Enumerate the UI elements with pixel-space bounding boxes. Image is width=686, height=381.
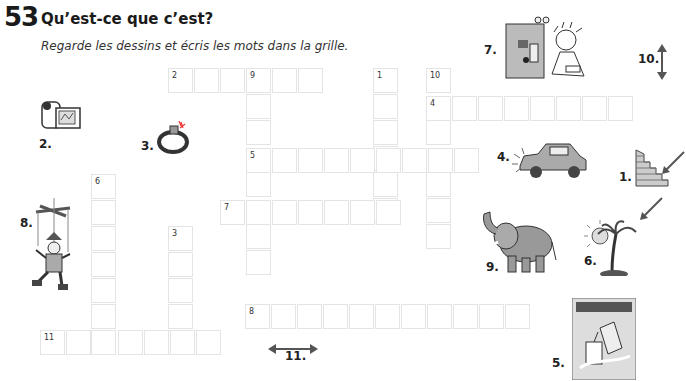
crossword-cell[interactable] — [427, 304, 452, 329]
crossword-cell[interactable] — [453, 304, 478, 329]
clue-number: 7 — [224, 203, 229, 212]
clue-number: 1 — [377, 71, 382, 80]
crossword-cell[interactable]: 10 — [426, 68, 451, 93]
crossword-cell[interactable] — [582, 96, 607, 121]
vertical-double-arrow-icon — [656, 44, 668, 80]
crossword-cell[interactable] — [324, 200, 349, 225]
crossword-cell[interactable] — [246, 224, 271, 249]
crossword-cell[interactable] — [91, 226, 116, 251]
crossword-cell[interactable]: 11 — [40, 330, 65, 355]
crossword-cell[interactable] — [505, 304, 530, 329]
crossword-cell[interactable] — [428, 148, 453, 173]
crossword-cell[interactable] — [556, 96, 581, 121]
inventor-machine-icon — [504, 14, 590, 80]
crossword-cell[interactable] — [144, 330, 169, 355]
picture-8 — [32, 198, 80, 302]
crossword-cell[interactable]: 3 — [168, 226, 193, 251]
picture-1 — [634, 148, 686, 192]
crossword-cell[interactable] — [373, 172, 398, 197]
crossword-cell[interactable] — [608, 96, 633, 121]
crossword-cell[interactable] — [297, 304, 322, 329]
marionette-icon — [32, 198, 80, 298]
crossword-cell[interactable] — [426, 198, 451, 223]
clue-number: 2 — [172, 71, 177, 80]
crossword-cell[interactable]: 2 — [168, 68, 193, 93]
crossword-cell[interactable] — [220, 68, 245, 93]
crossword-cell[interactable] — [298, 148, 323, 173]
picture-label-2: 2. — [39, 137, 52, 151]
picture-label-1: 1. — [619, 170, 632, 184]
clue-number: 4 — [430, 99, 435, 108]
crossword-cell[interactable] — [402, 148, 427, 173]
crossword-cell[interactable] — [452, 96, 477, 121]
crossword-cell[interactable] — [168, 278, 193, 303]
crossword-cell[interactable]: 7 — [220, 200, 245, 225]
crossword-cell[interactable] — [298, 68, 323, 93]
crossword-cell[interactable] — [168, 304, 193, 329]
crossword-cell[interactable] — [349, 304, 374, 329]
crossword-cell[interactable] — [298, 200, 323, 225]
crossword-cell[interactable] — [271, 304, 296, 329]
crossword-cell[interactable]: 8 — [245, 304, 270, 329]
crossword-cell[interactable] — [350, 148, 375, 173]
crossword-cell[interactable] — [323, 304, 348, 329]
crossword-cell[interactable] — [91, 278, 116, 303]
crossword-cell[interactable] — [168, 252, 193, 277]
crossword-cell[interactable] — [426, 120, 451, 145]
crossword-cell[interactable] — [373, 94, 398, 119]
crossword-cell[interactable] — [375, 304, 400, 329]
crossword-cell[interactable] — [91, 304, 116, 329]
crossword-cell[interactable] — [118, 330, 143, 355]
crossword-cell[interactable] — [426, 224, 451, 249]
crossword-cell[interactable] — [350, 200, 375, 225]
crashed-car-icon — [512, 138, 590, 180]
clue-number: 6 — [95, 177, 100, 186]
diamond-ring-icon — [153, 120, 195, 156]
clue-number: 11 — [44, 333, 54, 342]
crossword-cell[interactable] — [170, 330, 195, 355]
picture-label-8: 8. — [20, 216, 33, 230]
picture-label-11: 11. — [285, 349, 306, 363]
crossword-cell[interactable] — [246, 172, 271, 197]
crossword-cell[interactable] — [66, 330, 91, 355]
crossword-cell[interactable] — [426, 172, 451, 197]
crossword-cell[interactable] — [246, 200, 271, 225]
crossword-cell[interactable]: 9 — [246, 68, 271, 93]
clue-number: 10 — [430, 71, 440, 80]
crossword-cell[interactable] — [246, 250, 271, 275]
crossword-cell[interactable] — [194, 68, 219, 93]
picture-label-9: 9. — [486, 260, 499, 274]
picture-label-6: 6. — [584, 254, 597, 268]
crossword-cell[interactable] — [246, 94, 271, 119]
crossword-cell[interactable] — [91, 200, 116, 225]
crossword-cell[interactable] — [373, 120, 398, 145]
crossword-cell[interactable] — [530, 96, 555, 121]
crossword-cell[interactable]: 1 — [373, 68, 398, 93]
picture-label-5: 5. — [552, 356, 565, 370]
crossword-cell[interactable] — [376, 148, 401, 173]
crossword-cell[interactable] — [324, 148, 349, 173]
crossword-cell[interactable] — [196, 330, 221, 355]
crossword-cell[interactable] — [478, 96, 503, 121]
crossword-cell[interactable] — [479, 304, 504, 329]
crossword-cell[interactable] — [401, 304, 426, 329]
exercise-instruction: Regarde les dessins et écris les mots da… — [41, 39, 348, 53]
picture-4 — [512, 138, 590, 184]
crossword-cell[interactable] — [272, 148, 297, 173]
crossword-cell[interactable] — [504, 96, 529, 121]
crossword-cell[interactable] — [272, 68, 297, 93]
exercise-number: 53 — [4, 2, 38, 32]
crossword-cell[interactable]: 4 — [426, 96, 451, 121]
picture-3 — [153, 120, 195, 160]
crossword-cell[interactable]: 5 — [246, 148, 271, 173]
crossword-cell[interactable] — [376, 200, 401, 225]
crossword-cell[interactable] — [272, 200, 297, 225]
crossword-cell[interactable] — [91, 330, 116, 355]
camcorder-icon — [38, 96, 86, 134]
picture-5 — [572, 298, 636, 381]
crossword-cell[interactable]: 6 — [91, 174, 116, 199]
picture-label-4: 4. — [497, 150, 510, 164]
crossword-cell[interactable] — [91, 252, 116, 277]
crossword-cell[interactable] — [454, 148, 479, 173]
crossword-cell[interactable] — [246, 120, 271, 145]
